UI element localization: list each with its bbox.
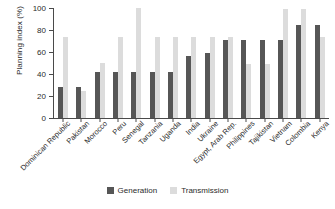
y-axis-tick bbox=[49, 8, 53, 9]
y-axis-tick bbox=[49, 52, 53, 53]
bar-group bbox=[256, 8, 274, 118]
legend-item: Generation bbox=[107, 186, 158, 195]
bar-transmission bbox=[246, 64, 251, 118]
bar-group bbox=[54, 8, 72, 118]
bar-transmission bbox=[283, 9, 288, 118]
bar-group bbox=[311, 8, 329, 118]
legend-label: Transmission bbox=[181, 186, 228, 195]
bar-transmission bbox=[301, 9, 306, 118]
legend-swatch bbox=[107, 187, 114, 194]
bar-group bbox=[219, 8, 237, 118]
y-axis-tick bbox=[49, 118, 53, 119]
plot-area: 020406080100 bbox=[53, 8, 329, 118]
bar-group bbox=[91, 8, 109, 118]
legend-swatch bbox=[170, 187, 177, 194]
bar-transmission bbox=[265, 64, 270, 118]
bar-transmission bbox=[81, 91, 86, 119]
x-axis-tick-label: Kenya bbox=[309, 119, 330, 140]
planning-index-bar-chart: Planning index (%) 020406080100 Dominica… bbox=[0, 0, 335, 209]
bar-group bbox=[237, 8, 255, 118]
bar-transmission bbox=[210, 37, 215, 118]
bar-group bbox=[146, 8, 164, 118]
y-axis-tick-label: 80 bbox=[37, 26, 46, 35]
bar-transmission bbox=[173, 37, 178, 118]
bar-transmission bbox=[63, 37, 68, 118]
bar-transmission bbox=[191, 37, 196, 118]
bar-group bbox=[164, 8, 182, 118]
bar-group bbox=[274, 8, 292, 118]
y-axis-tick-label: 60 bbox=[37, 48, 46, 57]
y-axis-title: Planning index (%) bbox=[15, 0, 24, 93]
y-axis-tick-label: 0 bbox=[42, 114, 46, 123]
bar-transmission bbox=[100, 63, 105, 118]
bar-group bbox=[72, 8, 90, 118]
chart-legend: GenerationTransmission bbox=[0, 186, 335, 195]
bar-group bbox=[127, 8, 145, 118]
bar-group bbox=[182, 8, 200, 118]
bar-transmission bbox=[155, 37, 160, 118]
bar-transmission bbox=[118, 37, 123, 118]
y-axis-tick bbox=[49, 96, 53, 97]
x-axis-tick-labels: Dominican RepublicPakistanMoroccoPeruSen… bbox=[54, 119, 330, 181]
y-axis-tick-label: 40 bbox=[37, 70, 46, 79]
x-axis-tick-label: Dominican Republic bbox=[19, 119, 73, 173]
bar-transmission bbox=[320, 37, 325, 118]
legend-label: Generation bbox=[118, 186, 158, 195]
bar-transmission bbox=[228, 37, 233, 118]
y-axis-tick-label: 20 bbox=[37, 92, 46, 101]
legend-item: Transmission bbox=[170, 186, 228, 195]
bar-transmission bbox=[136, 8, 141, 118]
bar-group bbox=[201, 8, 219, 118]
bar-groups bbox=[54, 8, 329, 118]
bar-group bbox=[109, 8, 127, 118]
y-axis-tick-label: 100 bbox=[33, 4, 46, 13]
y-axis-tick bbox=[49, 30, 53, 31]
y-axis-tick bbox=[49, 74, 53, 75]
bar-group bbox=[292, 8, 310, 118]
